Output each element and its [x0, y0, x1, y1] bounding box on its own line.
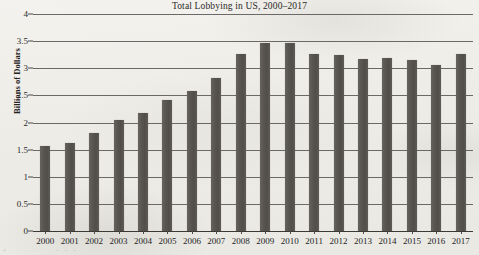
x-tick-label: 2001: [61, 236, 79, 246]
bar: [138, 113, 148, 231]
bar: [89, 133, 99, 231]
bar: [114, 120, 124, 231]
y-tick-label: 1.5: [17, 145, 28, 155]
y-tick-mark: [28, 41, 33, 42]
x-tick-mark: [363, 231, 364, 234]
x-tick-label: 2008: [232, 236, 250, 246]
x-tick-label: 2014: [378, 236, 396, 246]
y-tick-label: 3.5: [17, 36, 28, 46]
y-tick-mark: [28, 122, 33, 123]
bar: [456, 54, 466, 231]
x-tick-mark: [387, 231, 388, 234]
x-tick-label: 2003: [110, 236, 128, 246]
x-tick-label: 2015: [403, 236, 421, 246]
bar: [65, 143, 75, 231]
bar: [211, 78, 221, 231]
x-tick-mark: [70, 231, 71, 234]
x-tick-mark: [192, 231, 193, 234]
x-tick-label: 2010: [281, 236, 299, 246]
x-tick-mark: [265, 231, 266, 234]
x-tick-mark: [339, 231, 340, 234]
scan-artifact-left: ◦: [3, 246, 6, 255]
x-tick-mark: [412, 231, 413, 234]
y-tick-mark: [28, 231, 33, 232]
x-tick-mark: [290, 231, 291, 234]
x-tick-label: 2002: [85, 236, 103, 246]
x-tick-mark: [119, 231, 120, 234]
y-tick-mark: [28, 14, 33, 15]
x-tick-mark: [241, 231, 242, 234]
y-tick-mark: [28, 203, 33, 204]
y-tick-label: 4: [24, 9, 29, 19]
x-tick-mark: [45, 231, 46, 234]
x-tick-label: 2012: [330, 236, 348, 246]
y-tick-mark: [28, 68, 33, 69]
x-tick-label: 2006: [183, 236, 201, 246]
bar: [309, 54, 319, 231]
y-tick-label: 2.5: [17, 90, 28, 100]
bar: [431, 65, 441, 231]
bar: [358, 59, 368, 231]
y-tick-mark: [28, 149, 33, 150]
gridline: [33, 41, 473, 42]
x-tick-label: 2005: [158, 236, 176, 246]
y-tick-label: 0: [24, 226, 29, 236]
x-tick-label: 2009: [256, 236, 274, 246]
x-tick-mark: [461, 231, 462, 234]
x-axis: 2000200120022003200420052006200720082009…: [33, 234, 473, 250]
bar: [382, 58, 392, 231]
bar: [334, 55, 344, 231]
x-tick-mark: [216, 231, 217, 234]
y-tick-label: 3: [24, 63, 29, 73]
x-tick-label: 2000: [36, 236, 54, 246]
bar: [236, 54, 246, 231]
bar: [407, 60, 417, 231]
x-tick-mark: [314, 231, 315, 234]
y-tick-label: 1: [24, 172, 29, 182]
y-tick-mark: [28, 176, 33, 177]
x-tick-label: 2016: [427, 236, 445, 246]
bar: [285, 43, 295, 231]
y-tick-label: 0.5: [17, 199, 28, 209]
y-tick-mark: [28, 95, 33, 96]
axis-baseline: [33, 231, 473, 232]
x-tick-label: 2013: [354, 236, 372, 246]
x-tick-mark: [436, 231, 437, 234]
x-tick-label: 2004: [134, 236, 152, 246]
scan-artifact-mid: ···: [56, 246, 82, 255]
y-tick-label: 2: [24, 118, 29, 128]
plot-area: 00.511.522.533.54: [33, 14, 473, 231]
gridline: [33, 14, 473, 15]
x-tick-mark: [94, 231, 95, 234]
x-tick-label: 2007: [207, 236, 225, 246]
bar: [40, 146, 50, 231]
chart-title: Total Lobbying in US, 2000–2017: [0, 1, 479, 11]
x-tick-mark: [167, 231, 168, 234]
bar-chart: Total Lobbying in US, 2000–2017 Billions…: [0, 0, 479, 255]
bar: [260, 43, 270, 231]
x-tick-label: 2017: [452, 236, 470, 246]
x-tick-mark: [143, 231, 144, 234]
x-tick-label: 2011: [305, 236, 323, 246]
bar: [162, 100, 172, 231]
bar: [187, 91, 197, 231]
